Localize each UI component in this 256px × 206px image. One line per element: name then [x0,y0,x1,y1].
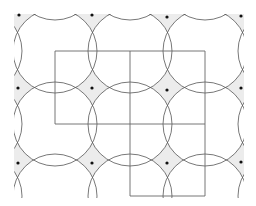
cell-center-dot [90,86,93,89]
cell-center-dot [90,13,93,16]
cell-center-dot [165,15,168,18]
diagram-canvas [0,0,256,206]
cell-center-dot [17,13,20,16]
cell-center-dot [239,14,242,17]
cell-center-dot [16,86,19,89]
cell-center-dot [165,88,168,91]
lattice-group [0,0,256,206]
circle-lattice-diagram [0,0,256,206]
cell-center-dot [16,161,19,164]
cell-center-dot [165,161,168,164]
cell-center-dot [239,160,242,163]
cell-center-dot [239,86,242,89]
cell-center-dot [90,161,93,164]
